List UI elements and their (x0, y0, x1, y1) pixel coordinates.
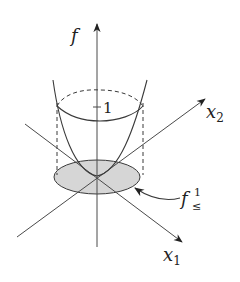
f-axis-label: f (69, 25, 81, 46)
sublevel-set-label-sup: 1 (194, 186, 201, 199)
sublevel-set-diagram: 1 f x2 x1 f 1 ≤ (0, 0, 240, 282)
sublevel-set-label-sub: ≤ (192, 200, 201, 213)
sublevel-pointer-arrow (135, 188, 180, 200)
sublevel-set-label: f (179, 188, 191, 209)
level-ellipse-back (57, 90, 143, 106)
x1-axis (25, 124, 182, 242)
level-value-label: 1 (103, 99, 113, 117)
level-ellipse-front (57, 106, 143, 121)
x1-axis-label: x1 (163, 244, 181, 268)
x2-axis-label: x2 (206, 101, 224, 125)
